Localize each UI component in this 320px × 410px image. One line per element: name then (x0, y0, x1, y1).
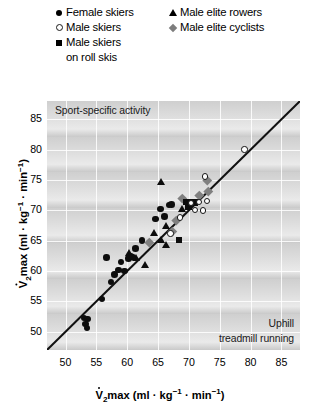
y-axis-title: V2max (ml · kg−1 · min−1) (13, 104, 32, 344)
data-point (108, 279, 115, 286)
annotation-treadmill-running: treadmill running (219, 333, 294, 344)
data-point (157, 206, 164, 213)
x-tick-label: 75 (208, 356, 232, 368)
data-point (177, 214, 183, 220)
data-point (202, 173, 208, 179)
x-tick-label: 85 (269, 356, 293, 368)
x-tick-label: 65 (146, 356, 170, 368)
data-point (99, 296, 106, 303)
data-point (176, 237, 183, 244)
annotation-sport-specific: Sport-specific activity (55, 105, 150, 116)
data-point (200, 207, 206, 213)
x-tick-label: 80 (239, 356, 263, 368)
data-point (103, 254, 110, 261)
data-point (121, 268, 128, 275)
data-point (241, 146, 247, 152)
data-point (84, 325, 91, 332)
data-point (204, 198, 210, 204)
data-point (168, 201, 175, 208)
data-point (150, 229, 158, 236)
x-tick-label: 50 (54, 356, 78, 368)
plot-area: Sport-specific activity Uphill treadmill… (47, 101, 300, 350)
plot-area-wrapper: Sport-specific activity Uphill treadmill… (0, 0, 320, 410)
x-tick-label: 60 (115, 356, 139, 368)
data-point (157, 178, 165, 185)
data-point (118, 259, 125, 266)
data-points-layer (47, 101, 300, 350)
data-point (84, 316, 91, 323)
data-point (203, 187, 212, 196)
annotation-uphill: Uphill (269, 318, 294, 329)
data-point (196, 199, 202, 205)
data-point (162, 241, 170, 248)
data-point (161, 213, 168, 220)
data-point (152, 216, 159, 223)
data-point (192, 207, 198, 213)
x-axis-title: V2max (ml · kg−1 · min−1) (0, 385, 320, 404)
x-tick-label: 55 (84, 356, 108, 368)
data-point (162, 222, 170, 229)
data-point (132, 245, 139, 252)
x-tick-label: 70 (177, 356, 201, 368)
data-point (167, 230, 173, 236)
vo2max-scatter-figure: Female skiers Male skiers Male skiers on… (0, 0, 320, 410)
data-point (144, 237, 153, 246)
data-point (141, 261, 149, 268)
